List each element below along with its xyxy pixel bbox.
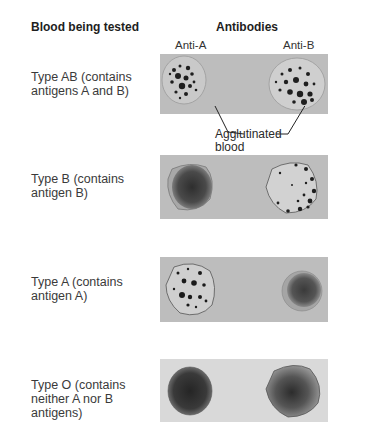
test-panel-type-a (160, 257, 328, 322)
row-label-type-a: Type A (contains antigen A) (31, 275, 151, 303)
sample-pair-icon (160, 257, 328, 322)
test-panel-type-o (160, 359, 328, 422)
row-label-type-ab: Type AB (contains antigens A and B) (31, 70, 151, 98)
test-panel-type-b (160, 155, 328, 219)
sample-pair-icon (160, 359, 328, 422)
callout-line-2: blood (215, 141, 282, 154)
column-anti-a: Anti-A (175, 39, 206, 51)
header-blood-tested: Blood being tested (31, 20, 139, 34)
row-label-type-b: Type B (contains antigen B) (31, 172, 151, 200)
sample-pair-icon (160, 155, 328, 219)
row-label-type-o: Type O (contains neither A nor B antigen… (31, 378, 151, 420)
test-panel-type-ab (160, 54, 328, 114)
callout-label: Agglutinated blood (215, 128, 282, 154)
column-anti-b: Anti-B (283, 39, 314, 51)
header-antibodies: Antibodies (216, 20, 278, 34)
agglutinated-sample-icon (160, 54, 328, 114)
